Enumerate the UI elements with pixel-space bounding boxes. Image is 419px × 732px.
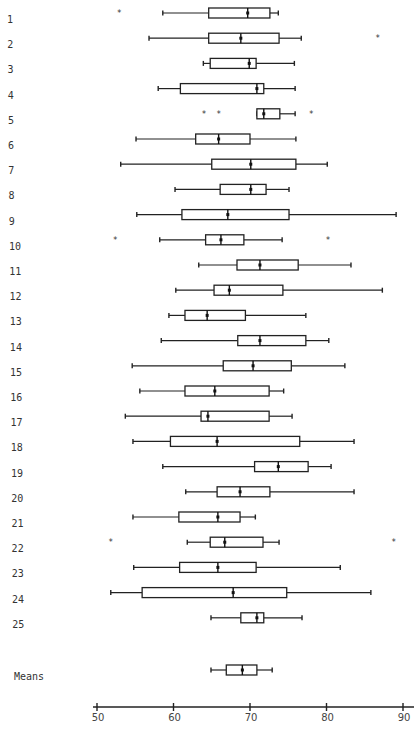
iqr-box (212, 159, 296, 169)
row-label: Means (14, 671, 44, 682)
box-row: 14 (10, 336, 329, 353)
iqr-box (210, 537, 263, 547)
box-row: 6 (8, 134, 296, 151)
median-marker (219, 238, 222, 241)
iqr-box (237, 260, 298, 270)
row-label: 17 (11, 417, 23, 428)
median-marker (217, 138, 220, 141)
outlier-point: * (113, 236, 117, 245)
row-label: 15 (10, 367, 22, 378)
iqr-box (180, 84, 263, 94)
iqr-box (196, 134, 250, 144)
box-row: 22** (12, 537, 396, 554)
outlier-point: * (109, 538, 113, 547)
box-row: 1* (7, 8, 278, 25)
row-label: 7 (8, 165, 14, 176)
median-marker (216, 516, 219, 519)
median-marker (246, 12, 249, 15)
row-label: 13 (10, 316, 22, 327)
box-row: 10** (9, 235, 330, 252)
row-label: 4 (8, 90, 14, 101)
x-tick-label: 80 (321, 712, 334, 723)
row-label: 20 (11, 493, 23, 504)
outlier-point: * (309, 110, 313, 119)
box-row: 15 (10, 361, 345, 378)
median-marker (232, 591, 235, 594)
box-row: 17 (11, 411, 293, 428)
median-marker (255, 616, 258, 619)
iqr-box (223, 361, 291, 371)
row-label: 22 (12, 543, 24, 554)
median-marker (249, 163, 252, 166)
row-label: 23 (12, 568, 24, 579)
median-marker (213, 390, 216, 393)
iqr-box (201, 411, 269, 421)
row-label: 3 (7, 64, 13, 75)
iqr-box (179, 512, 240, 522)
box-row: 7 (8, 159, 327, 176)
iqr-box (209, 8, 270, 18)
median-marker (216, 566, 219, 569)
iqr-box (217, 487, 270, 497)
box-row: 12 (9, 285, 382, 302)
row-label: 11 (9, 266, 21, 277)
row-label: 9 (9, 216, 15, 227)
row-label: 14 (10, 342, 22, 353)
box-row: 11 (9, 260, 351, 277)
x-axis-ticks: 5060708090 (92, 703, 411, 723)
median-marker (252, 364, 255, 367)
iqr-box (255, 462, 309, 472)
iqr-box (170, 436, 299, 446)
row-label: 1 (7, 14, 13, 25)
outlier-point: * (326, 236, 330, 245)
x-tick-label: 70 (245, 712, 258, 723)
median-marker (277, 465, 280, 468)
row-label: 10 (9, 241, 21, 252)
median-marker (206, 415, 209, 418)
row-label: 8 (9, 190, 15, 201)
row-label: 6 (8, 140, 14, 151)
outlier-point: * (217, 110, 221, 119)
box-row: 20 (11, 487, 354, 504)
row-label: 25 (12, 619, 24, 630)
box-means: Means (14, 665, 272, 682)
box-row: 21 (11, 512, 255, 529)
median-marker (206, 314, 209, 317)
median-marker (262, 112, 265, 115)
box-row: 24 (12, 588, 371, 605)
row-label: 24 (12, 594, 24, 605)
outlier-point: * (202, 110, 206, 119)
median-marker (216, 440, 219, 443)
x-tick-label: 50 (92, 712, 105, 723)
box-row: 3 (7, 58, 294, 75)
iqr-box (209, 33, 279, 43)
box-row: 25 (12, 613, 302, 630)
median-marker (258, 264, 261, 267)
iqr-box (220, 184, 266, 194)
box-row: 2* (7, 33, 380, 50)
row-label: 19 (11, 468, 23, 479)
median-marker (226, 213, 229, 216)
outlier-point: * (392, 538, 396, 547)
row-label: 2 (7, 39, 13, 50)
x-tick-label: 60 (168, 712, 181, 723)
boxplot-rows: 1*2*345***678910**1112131415161718192021… (7, 8, 396, 682)
median-marker (223, 541, 226, 544)
row-label: 18 (11, 442, 23, 453)
iqr-box (142, 588, 287, 598)
box-row: 5*** (8, 109, 313, 126)
iqr-box (182, 210, 289, 220)
median-marker (248, 62, 251, 65)
median-marker (255, 87, 258, 90)
iqr-box (214, 285, 283, 295)
box-row: 16 (10, 386, 283, 403)
median-marker (241, 669, 244, 672)
row-label: 21 (11, 518, 23, 529)
outlier-point: * (117, 9, 121, 18)
iqr-box (185, 386, 269, 396)
median-marker (249, 188, 252, 191)
x-tick-label: 90 (398, 712, 411, 723)
box-row: 8 (9, 184, 289, 201)
median-marker (239, 37, 242, 40)
box-row: 23 (12, 562, 340, 579)
